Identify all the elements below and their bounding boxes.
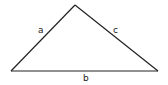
- triangle-diagram: a c b: [0, 0, 168, 85]
- label-side-a: a: [38, 26, 44, 35]
- label-side-b: b: [83, 74, 89, 83]
- side-c: [75, 5, 158, 71]
- side-a: [11, 5, 75, 71]
- label-side-c: c: [113, 26, 118, 35]
